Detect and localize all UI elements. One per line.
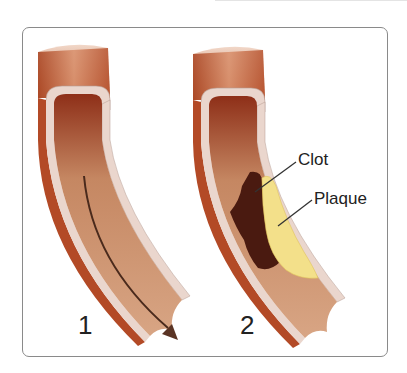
panel-number-2: 2 — [240, 310, 254, 341]
artery-illustration — [0, 0, 407, 373]
plaque-label: Plaque — [314, 189, 367, 209]
vessel-1 — [38, 45, 190, 346]
clot-label: Clot — [298, 150, 328, 170]
panel-number-1: 1 — [78, 310, 92, 341]
